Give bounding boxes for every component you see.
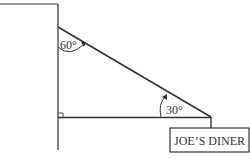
sight-line	[58, 27, 211, 117]
diagram-canvas: 60° 30° JOE’S DINER	[0, 0, 250, 158]
angle-60-label: 60°	[60, 38, 77, 52]
sign-label: JOE’S DINER	[174, 134, 245, 148]
building	[0, 4, 58, 150]
angle-30-label: 30°	[166, 103, 183, 117]
